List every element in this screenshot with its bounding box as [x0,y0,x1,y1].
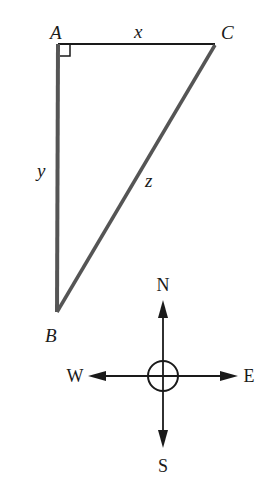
side-ab [57,44,58,312]
side-label-x: x [133,21,143,42]
right-angle-marker [60,45,70,56]
right-triangle [57,44,215,312]
triangle-compass-diagram: A C B x y z N S W E [0,0,277,496]
vertex-label-a: A [48,22,62,43]
compass-label-east: E [244,366,255,386]
vertex-label-b: B [45,325,57,346]
vertex-labels: A C B [45,22,234,346]
compass-label-north: N [157,275,170,295]
compass-rose: N S W E [67,275,255,476]
side-label-y: y [35,160,46,181]
side-bc [57,45,215,312]
compass-label-west: W [67,366,84,386]
side-label-z: z [144,170,153,191]
vertex-label-c: C [221,22,234,43]
side-labels: x y z [35,21,153,191]
east-arrow-icon [220,371,238,381]
north-arrow-icon [158,300,168,318]
south-arrow-icon [158,430,168,448]
west-arrow-icon [88,371,106,381]
compass-label-south: S [158,456,168,476]
